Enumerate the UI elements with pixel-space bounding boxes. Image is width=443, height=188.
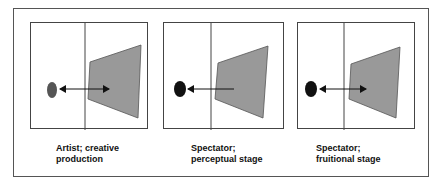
caption-line: Spectator; <box>316 143 381 154</box>
caption-artist: Artist; creative production <box>56 143 119 165</box>
panel-perceptual-drawing <box>164 23 285 130</box>
artwork-trapezoid-shape <box>88 45 141 118</box>
viewer-ellipse <box>305 81 317 97</box>
caption-line: fruitional stage <box>316 154 381 165</box>
panel-fruitional-drawing <box>298 23 416 130</box>
caption-line: perceptual stage <box>191 154 263 165</box>
caption-spectator-perceptual: Spectator; perceptual stage <box>191 143 263 165</box>
caption-line: Artist; creative <box>56 143 119 154</box>
panel-artist-drawing <box>31 23 149 130</box>
viewer-ellipse <box>174 81 186 97</box>
caption-spectator-fruitional: Spectator; fruitional stage <box>316 143 381 165</box>
caption-line: Spectator; <box>191 143 263 154</box>
artwork-trapezoid-shape <box>349 47 400 118</box>
artwork-trapezoid-shape <box>215 46 268 118</box>
viewer-ellipse <box>47 82 57 98</box>
panel-spectator-perceptual <box>163 22 284 129</box>
panel-spectator-fruitional <box>297 22 415 129</box>
caption-line: production <box>56 154 119 165</box>
panel-artist <box>30 22 148 129</box>
